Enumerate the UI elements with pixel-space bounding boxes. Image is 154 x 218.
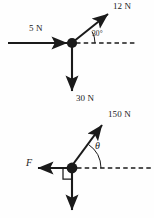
label-force-12n: 12 N [113, 2, 131, 11]
label-angle-theta: θ [95, 141, 100, 151]
lower-diagram-group [38, 125, 151, 210]
force-diagram-figure: 12 N 5 N 30° 30 N 150 N θ F [0, 0, 154, 218]
upper-diagram-group [8, 14, 136, 91]
label-force-150n: 150 N [108, 110, 131, 119]
upper-node-dot [67, 38, 77, 48]
label-force-30n: 30 N [76, 94, 94, 103]
label-force-5n: 5 N [29, 24, 43, 33]
lower-node-dot [67, 163, 78, 174]
label-angle-30: 30° [92, 30, 103, 38]
label-force-f: F [26, 158, 32, 168]
